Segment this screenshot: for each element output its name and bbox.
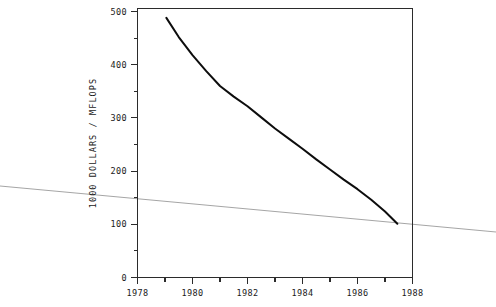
line-chart-svg: 0 100 200 300 400 500 1978 1980 (0, 0, 496, 307)
y-tick-label: 300 (110, 113, 127, 123)
y-tick-label: 400 (110, 60, 127, 70)
chart-figure: 0 100 200 300 400 500 1978 1980 (0, 0, 496, 307)
x-tick-label: 1980 (181, 288, 203, 298)
y-tick-label: 100 (110, 219, 127, 229)
y-tick-label: 0 (121, 273, 127, 283)
x-tick-label: 1986 (346, 288, 368, 298)
x-tick-label: 1988 (401, 288, 423, 298)
y-axis-title: 1000 DOLLARS / MFLOPS (88, 78, 98, 209)
x-tick-label: 1984 (291, 288, 313, 298)
x-tick-label: 1982 (236, 288, 258, 298)
y-tick-label: 200 (110, 166, 127, 176)
y-tick-label: 500 (110, 7, 127, 17)
x-tick-label: 1978 (126, 288, 148, 298)
chart-background (0, 0, 496, 307)
